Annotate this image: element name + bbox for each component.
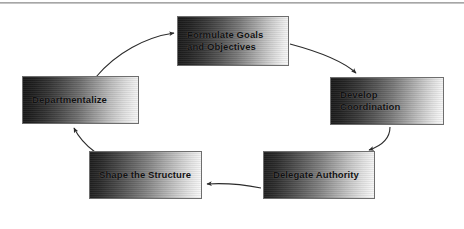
node-develop-coordination[interactable]: Develop Coordination [330, 77, 444, 125]
node-departmentalize-label: Departmentalize [32, 94, 107, 107]
arrow-delegate-to-shape [207, 184, 261, 188]
node-formulate-goals-label: Formulate Goals and Objectives [187, 29, 263, 54]
arrow-formulate-to-develop [290, 44, 356, 73]
node-develop-coordination-label: Develop Coordination [340, 89, 400, 114]
node-delegate-authority-label: Delegate Authority [273, 169, 359, 182]
node-formulate-goals[interactable]: Formulate Goals and Objectives [177, 16, 289, 66]
organizing-process-cycle-figure: Formulate Goals and Objectives Develop C… [0, 0, 464, 229]
arrow-shape-to-departmentalize [74, 128, 95, 152]
arrow-departmentalize-to-formulate [96, 33, 174, 77]
arrow-develop-to-delegate [369, 127, 390, 150]
node-shape-the-structure-label: Shape the Structure [99, 169, 191, 182]
node-departmentalize[interactable]: Departmentalize [22, 76, 139, 124]
node-delegate-authority[interactable]: Delegate Authority [263, 151, 375, 199]
node-shape-the-structure[interactable]: Shape the Structure [89, 151, 202, 199]
